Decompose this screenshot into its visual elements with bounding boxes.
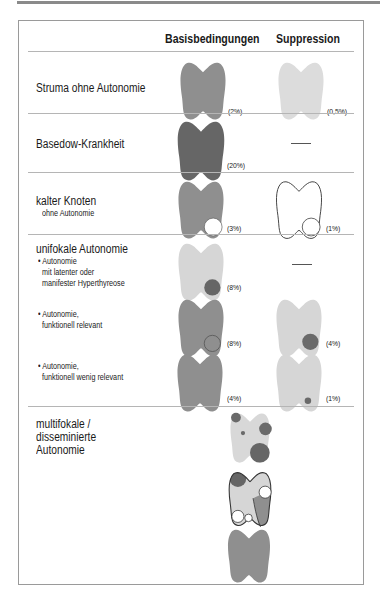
- thyroid-icon-struma-basis: [178, 61, 228, 121]
- pct-unifokal-2-basis: (8%): [227, 339, 241, 348]
- pct-unifokal-3-suppression: (1%): [326, 394, 340, 403]
- row-divider: [28, 113, 354, 114]
- row-label-unifokal: unifokale Autonomie: [36, 242, 128, 256]
- unifokal-item-1-line-2: mit latenter oder: [42, 267, 94, 277]
- pct-unifokal-1-basis: (8%): [227, 283, 241, 292]
- pct-kalter-basis: (3%): [227, 224, 241, 233]
- no-value-dash-basedow: [291, 143, 311, 144]
- multifokal-line-2: disseminierte: [36, 430, 96, 444]
- row-label-kalter-knoten: kalter Knoten: [36, 194, 96, 208]
- multifokal-line-1: multifokale /: [36, 417, 90, 431]
- row-divider: [28, 234, 354, 235]
- header-divider: [28, 51, 354, 52]
- column-header-suppression: Suppression: [276, 32, 340, 46]
- row-label-multifokal: multifokale / disseminierte Autonomie: [36, 418, 96, 457]
- pct-kalter-suppression: (1%): [326, 224, 340, 233]
- unifokal-item-2-line-1: Autonomie,: [42, 309, 79, 319]
- unifokal-item-1-text: • Autonomie mit latenter oder manifester…: [38, 256, 125, 289]
- unifokal-item-3-line-2: funktionell wenig relevant: [42, 372, 123, 382]
- thyroid-icon-multifokal-diffuse: [223, 528, 275, 584]
- multifokal-line-3: Autonomie: [36, 443, 85, 457]
- bullet: •: [38, 309, 41, 319]
- row-divider: [28, 406, 354, 407]
- no-value-dash-unifokal-1: [292, 264, 312, 265]
- thyroid-icon-unifokal-2-suppression: [274, 298, 324, 358]
- row-label-struma: Struma ohne Autonomie: [36, 81, 145, 95]
- pct-struma-basis: (2%): [228, 107, 242, 116]
- thyroid-icon-multifokal-nodes: [224, 412, 276, 464]
- thyroid-icon-kalter-suppression: [274, 180, 324, 240]
- thyroid-icon-unifokal-2-basis: [176, 298, 226, 358]
- unifokal-item-1-line-1: Autonomie: [42, 256, 77, 266]
- thyroid-icon-struma-suppression: [276, 61, 326, 121]
- pct-unifokal-2-suppression: (4%): [326, 339, 340, 348]
- bullet: •: [38, 361, 41, 371]
- thyroid-icon-kalter-basis: [176, 180, 226, 240]
- pct-struma-suppression: (0,5%): [327, 107, 347, 116]
- pct-unifokal-3-basis: (4%): [227, 394, 241, 403]
- thyroid-icon-multifokal-mixed: [224, 471, 276, 527]
- bullet: •: [38, 256, 41, 266]
- row-label-basedow: Basedow-Krankheit: [36, 137, 124, 151]
- unifokal-item-3-line-1: Autonomie,: [42, 361, 79, 371]
- unifokal-item-2-text: • Autonomie, funktionell relevant: [38, 309, 102, 331]
- top-rule: [17, 1, 380, 4]
- column-header-basis: Basisbedingungen: [165, 32, 259, 46]
- unifokal-item-3-text: • Autonomie, funktionell wenig relevant: [38, 361, 123, 383]
- thyroid-icon-unifokal-3-suppression: [274, 353, 324, 413]
- pct-basedow-basis: (20%): [227, 161, 245, 170]
- thyroid-icon-unifokal-3-basis: [175, 353, 225, 413]
- row-sublabel-kalter-knoten: ohne Autonomie: [42, 208, 94, 219]
- unifokal-item-1-line-3: manifester Hyperthyreose: [42, 278, 125, 288]
- thyroid-icon-unifokal-1-basis: [176, 242, 226, 302]
- unifokal-item-2-line-2: funktionell relevant: [42, 320, 102, 330]
- row-divider: [28, 172, 354, 173]
